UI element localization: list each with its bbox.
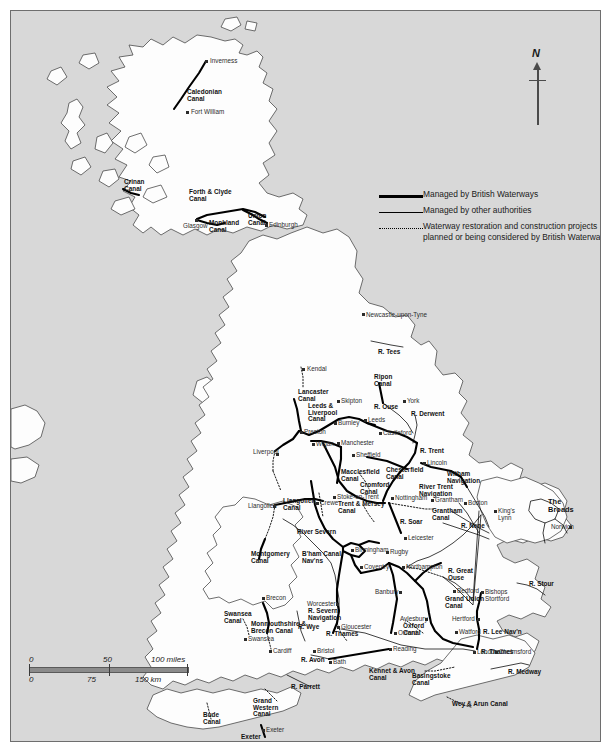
- north-arrow-shaft: [537, 67, 539, 125]
- canal-label-r-severn-navigation: R. SevernNavigation: [308, 608, 341, 621]
- city-marker-leeds: [364, 419, 367, 422]
- city-label-birmingham: Birmingham: [355, 547, 389, 554]
- city-marker-stoke-on-trent: [333, 496, 336, 499]
- city-marker-reading: [389, 648, 392, 651]
- city-marker-grantham: [431, 499, 434, 502]
- canal-label-kennet-avon-canal: Kennet & AvonCanal: [369, 668, 415, 681]
- legend-key-thick-line: [379, 189, 423, 198]
- scale-km-75: 75: [87, 675, 96, 684]
- city-marker-london: [473, 651, 476, 654]
- city-marker-edinburgh: [265, 224, 268, 227]
- city-label-northampton: Northampton: [406, 564, 442, 571]
- canal-label-union-canal: UnionCanal: [248, 213, 266, 226]
- canal-label-chesterfield-canal: ChesterfieldCanal: [386, 467, 424, 480]
- city-marker-burnley: [334, 422, 337, 425]
- city-label-exeter: Exeter: [266, 727, 284, 734]
- canal-label-r-lee-nav-n: R. Lee Nav'n: [483, 629, 522, 636]
- city-marker-northampton: [402, 566, 405, 569]
- canal-label-caledonian-canal: CaledonianCanal: [187, 89, 222, 102]
- river-label-river-severn: River Severn: [297, 529, 336, 536]
- city-marker-watford: [455, 631, 458, 634]
- canal-label-llangollen-canal: LlangollenCanal: [283, 498, 315, 511]
- city-label-castleford: Castleford: [383, 430, 412, 437]
- city-label-nottingham: Nottingham: [395, 495, 427, 502]
- map-canvas: .land{fill:#fdfdfd;stroke:#4a4a4a;stroke…: [10, 10, 601, 742]
- city-label-swansea: Swansea: [248, 636, 274, 643]
- city-marker-swansea: [244, 638, 247, 641]
- landmass-orkney: [221, 17, 257, 31]
- city-marker-crewe: [316, 502, 319, 505]
- city-marker-lincoln: [423, 462, 426, 465]
- city-label-manchester: Manchester: [341, 440, 374, 447]
- canal-label-trent-mersey-canal: Trent & MerseyCanal: [338, 501, 385, 514]
- city-marker-aylesbury: [425, 618, 428, 621]
- canal-label-b-ham-canal-nav-ns: B'ham CanalNav'ns: [302, 551, 341, 564]
- city-label-stoke-on-trent: Stoke-on-Trent: [337, 494, 379, 501]
- city-marker-chelmsford: [495, 651, 498, 654]
- city-label-cardiff: Cardiff: [273, 648, 291, 655]
- river-label-r-soar: R. Soar: [400, 519, 422, 526]
- city-label-lincoln: Lincoln: [427, 460, 447, 467]
- city-label-wigan: Wigan: [316, 441, 334, 448]
- city-label-inverness: Inverness: [210, 58, 237, 65]
- north-arrow-label: N: [532, 47, 540, 59]
- city-marker-manchester: [337, 442, 340, 445]
- city-label-bedford: Bedford: [457, 588, 479, 595]
- river-label-r-ouse: R. Ouse: [374, 404, 398, 411]
- canal-label-exeter-ship-canal: ExeterShip Canal: [241, 734, 275, 742]
- canal-label-bude-canal: BudeCanal: [203, 712, 221, 725]
- city-label-aylesbury: Aylesbury: [400, 616, 428, 623]
- city-marker-wigan: [312, 443, 315, 446]
- city-label-king-s-lynn: King'sLynn: [498, 508, 515, 521]
- city-marker-cardiff: [269, 650, 272, 653]
- river-label-r-great-ouse: R. GreatOuse: [448, 568, 473, 581]
- city-label-preston: Preston: [304, 429, 326, 436]
- legend-item-restoration: Waterway restoration and construction pr…: [379, 221, 601, 243]
- city-marker-kendal: [302, 368, 305, 371]
- city-label-banbury: Banbury: [375, 589, 398, 596]
- legend-key-thin-line: [379, 205, 423, 213]
- city-label-bristol: Bristol: [317, 648, 335, 655]
- city-marker-sheffield: [352, 454, 355, 457]
- river-label-r-medway: R. Medway: [508, 669, 541, 676]
- city-marker-preston: [300, 431, 303, 434]
- city-marker-newcastle-upon-tyne: [362, 313, 365, 316]
- city-label-gloucester: Gloucester: [341, 624, 371, 631]
- city-label-glasgow: Glasgow: [183, 223, 208, 230]
- city-marker-gloucester: [337, 626, 340, 629]
- city-label-crewe: Crewe: [320, 500, 338, 507]
- city-label-grantham: Grantham: [435, 497, 463, 504]
- city-marker-inverness: [205, 60, 208, 63]
- city-marker-bedford: [453, 590, 456, 593]
- city-marker-boston: [464, 502, 467, 505]
- river-label-r-wye: R. Wye: [298, 624, 319, 631]
- canal-label-lancaster-canal: LancasterCanal: [298, 389, 329, 402]
- city-label-kendal: Kendal: [307, 366, 327, 373]
- city-label-brecon: Brecon: [266, 595, 286, 602]
- city-marker-oxford: [394, 632, 397, 635]
- canal-label-grand-western-canal: GrandWesternCanal: [253, 698, 278, 718]
- legend-label-restoration: Waterway restoration and construction pr…: [423, 221, 601, 243]
- city-label-burnley: Burnley: [338, 420, 359, 427]
- city-label-worcester: Worcester: [307, 601, 336, 608]
- city-marker-bishops-stortford: [481, 591, 484, 594]
- city-marker-brecon: [262, 597, 265, 600]
- canal-label-monkland-canal: MonklandCanal: [209, 220, 239, 233]
- city-marker-leicester: [404, 537, 407, 540]
- legend-key-dotted-line: [379, 221, 423, 229]
- scale-miles-50: 50: [103, 655, 112, 664]
- river-label-r-stour: R. Stour: [529, 581, 554, 588]
- city-label-sheffield: Sheffield: [356, 452, 380, 459]
- city-label-bath: Bath: [333, 659, 346, 666]
- city-marker-nottingham: [391, 497, 394, 500]
- city-marker-coventry: [360, 566, 363, 569]
- city-marker-bristol: [313, 650, 316, 653]
- canal-label-forth-clyde-canal: Forth & ClydeCanal: [189, 189, 232, 202]
- river-label-r-trent: R. Trent: [420, 448, 444, 455]
- canal-label-grantham-canal: GranthamCanal: [432, 508, 463, 521]
- landmass-northern-ireland: [11, 405, 45, 483]
- city-label-leeds: Leeds: [368, 417, 385, 424]
- river-label-r-thames: R. Thames: [326, 631, 358, 638]
- city-marker-king-s-lynn: [494, 510, 497, 513]
- canal-label-swansea-canal: SwanseaCanal: [224, 611, 252, 624]
